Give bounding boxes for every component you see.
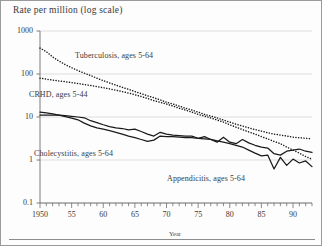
bottom-rule: [9, 239, 315, 240]
series-label-cholecystitis: Cholecystitis, ages 5-64: [34, 149, 113, 158]
y-tick-label: 10: [3, 112, 33, 121]
y-tick-label: 100: [3, 69, 33, 78]
series-label-tuberculosis: Tuberculosis, ages 5-64: [75, 51, 153, 60]
series-label-crhd: CRHD, ages 5-44: [29, 90, 88, 99]
y-tick-marks: [37, 31, 41, 203]
x-tick-label: 90: [273, 210, 313, 219]
chart-figure: Rate per million (log scale) Tuberculosi…: [0, 0, 322, 246]
y-tick-label: 1000: [3, 26, 33, 35]
y-tick-label: 0.1: [3, 198, 33, 207]
x-tick-marks: [40, 203, 312, 208]
y-tick-label: 1: [3, 155, 33, 164]
series-label-appendicitis: Appendicitis, ages 5-64: [167, 174, 245, 183]
x-axis-title: Year: [169, 230, 181, 237]
